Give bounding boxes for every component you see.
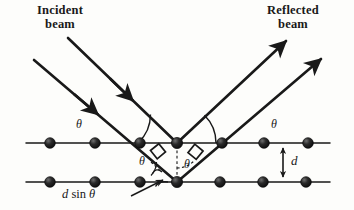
incident-beam-label: Incident beam — [14, 4, 106, 31]
path-difference-sin: sin — [71, 187, 86, 201]
theta-right-arc — [205, 115, 217, 143]
atom — [45, 138, 56, 149]
reflected-beam-label-line1: Reflected — [244, 4, 342, 18]
path-difference-theta: θ — [89, 187, 95, 201]
atom — [90, 177, 101, 188]
theta-left-label: θ — [76, 118, 82, 131]
right-angle-marker-right — [188, 144, 203, 159]
atom — [258, 177, 269, 188]
reflected-beam-label: Reflected beam — [244, 4, 342, 31]
bragg-diffraction-figure: Incident beam Reflected beam θ θ θ θ d d… — [0, 0, 354, 210]
lower-reflected-ray — [177, 59, 321, 182]
atom — [217, 138, 228, 149]
incident-beam-rays — [34, 38, 177, 182]
atom — [90, 138, 101, 149]
reflected-beam-rays — [177, 41, 321, 182]
atom — [135, 177, 146, 188]
incident-beam-label-line1: Incident — [14, 4, 106, 18]
atom — [303, 138, 314, 149]
reflected-beam-label-line2: beam — [244, 18, 342, 32]
lower-incident-ray-arrowhead — [74, 94, 98, 115]
theta-center-label: θ — [184, 158, 190, 171]
diagram-canvas — [0, 0, 354, 210]
upper-reflected-ray — [177, 41, 286, 143]
theta-lower-left-label: θ — [139, 155, 145, 168]
scattering-atom-top — [171, 137, 182, 148]
incident-beam-label-line2: beam — [14, 18, 106, 32]
atom — [301, 177, 312, 188]
path-difference-label: d sin θ — [62, 188, 95, 202]
atom — [259, 138, 270, 149]
upper-incident-ray-arrowhead — [110, 79, 133, 101]
scattering-atom-bottom — [171, 176, 182, 187]
atom — [135, 138, 146, 149]
atom — [45, 177, 56, 188]
right-angle-marker-left — [151, 144, 166, 159]
atom — [215, 177, 226, 188]
interplanar-spacing-label: d — [291, 154, 298, 168]
theta-right-label: θ — [271, 118, 277, 131]
